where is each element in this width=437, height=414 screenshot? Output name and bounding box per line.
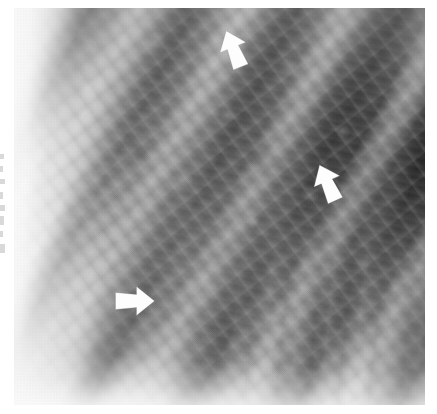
margin-text-fragment [0, 216, 4, 225]
margin-text-fragment [0, 231, 3, 237]
reticular-markings-layer [14, 8, 425, 405]
film-grain-layer [14, 8, 425, 405]
chest-radiograph-image [14, 8, 425, 405]
margin-text-fragment [0, 166, 3, 172]
arrow-glyph-lower [116, 287, 155, 316]
annotation-arrow-lower [112, 284, 156, 318]
margin-text-fragment [0, 205, 5, 211]
nodular-opacities-layer [14, 8, 425, 405]
margin-text-fragment [0, 154, 4, 159]
chest-wall-edge-layer [14, 8, 425, 405]
figure-root [0, 0, 437, 414]
margin-text-fragment [0, 179, 5, 184]
vertebral-stripes-layer [14, 8, 425, 405]
diaphragm-edge-layer [14, 8, 425, 405]
margin-text-fragments [0, 152, 9, 264]
rib-bands-layer [14, 8, 425, 405]
margin-text-fragment [0, 244, 5, 253]
posterior-rib-bands-layer [14, 8, 425, 405]
margin-text-fragment [0, 192, 3, 199]
film-base-tone-layer [14, 8, 425, 405]
